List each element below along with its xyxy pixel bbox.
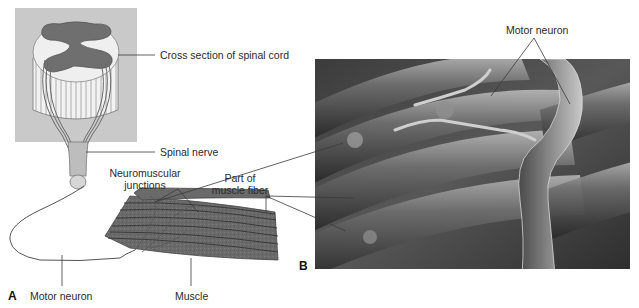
label-muscle-fiber: Part of muscle fiber <box>205 172 275 196</box>
label-cross-section: Cross section of spinal cord <box>160 49 289 61</box>
label-muscle: Muscle <box>175 290 208 302</box>
label-nmj-line1: Neuromuscular <box>105 167 185 179</box>
label-motor-neuron-a: Motor neuron <box>30 290 92 302</box>
panel-letter-a: A <box>8 289 17 303</box>
label-muscle-fiber-line1: Part of <box>205 172 275 184</box>
label-nmj-line2: junctions <box>105 179 185 191</box>
label-nmj: Neuromuscular junctions <box>105 167 185 191</box>
anatomy-figure: Cross section of spinal cord Spinal nerv… <box>0 0 639 308</box>
label-motor-neuron-b: Motor neuron <box>506 24 568 36</box>
panel-b-micrograph <box>300 55 639 280</box>
label-spinal-nerve: Spinal nerve <box>160 146 218 158</box>
panel-a-illustration <box>0 0 639 308</box>
panel-letter-b: B <box>299 259 308 273</box>
label-muscle-fiber-line2: muscle fiber <box>205 184 275 196</box>
muscle-bundle <box>105 188 278 260</box>
